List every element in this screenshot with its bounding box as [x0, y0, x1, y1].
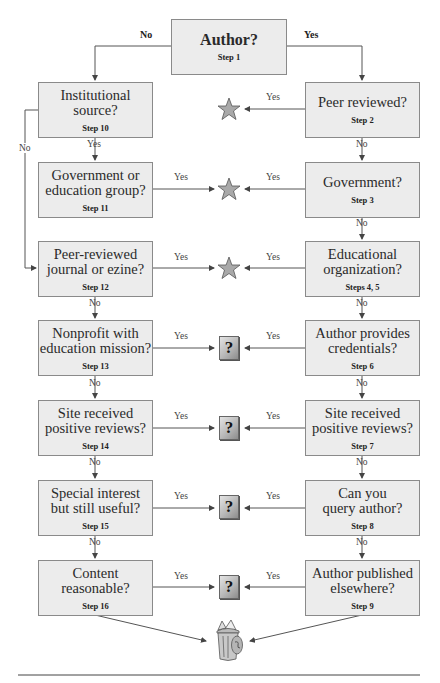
step-11-yes-label: Yes — [174, 172, 188, 182]
step-16-box: Content reasonable? Step 16 — [38, 560, 153, 616]
step-13-label: Step 13 — [82, 361, 109, 371]
step-15-label: Step 15 — [82, 521, 109, 531]
question-mark-icon: ? — [219, 416, 239, 440]
step-12-box: Peer-reviewed journal or ezine? Step 12 — [38, 241, 153, 297]
step-14-label: Step 14 — [82, 441, 109, 451]
step-9-line-2: elsewhere? — [330, 581, 394, 596]
step-6-box: Author provides credentials? Step 6 — [305, 320, 420, 376]
step-6-line-1: Author provides — [315, 326, 410, 341]
step-14-line-1: Site received — [58, 406, 133, 421]
step-14-no-label: No — [89, 457, 101, 467]
step-11-label: Step 11 — [82, 203, 108, 213]
step-6-yes-label: Yes — [266, 331, 280, 341]
step-10-yes-label: Yes — [87, 139, 101, 149]
step-10-line-2: source? — [73, 103, 117, 118]
trash-can-icon — [212, 618, 244, 662]
step-11-box: Government or education group? Step 11 — [38, 162, 153, 218]
step-3-line-1: Government? — [323, 175, 402, 190]
start-yes-label: Yes — [304, 29, 318, 40]
step-8-box: Can you query author? Step 8 — [305, 480, 420, 536]
step-6-label: Step 6 — [351, 361, 373, 371]
step-12-yes-label: Yes — [174, 252, 188, 262]
step-15-box: Special interest but still useful? Step … — [38, 480, 153, 536]
step-15-yes-label: Yes — [174, 491, 188, 501]
step-2-yes-label: Yes — [266, 92, 280, 102]
question-mark-icon: ? — [219, 575, 239, 599]
question-mark-icon: ? — [219, 336, 239, 360]
step-13-no-label: No — [89, 378, 101, 388]
step-16-line-2: reasonable? — [61, 581, 129, 596]
step-8-line-1: Can you — [338, 486, 387, 501]
question-mark-icon: ? — [219, 495, 239, 519]
step-13-yes-label: Yes — [174, 331, 188, 341]
steps-4-5-no-label: No — [356, 298, 368, 308]
steps-4-5-yes-label: Yes — [266, 252, 280, 262]
step-16-line-1: Content — [73, 566, 119, 581]
star-icon — [217, 177, 241, 201]
step-2-line-1: Peer reviewed? — [318, 95, 407, 110]
step-10-label: Step 10 — [82, 123, 109, 133]
step-9-line-1: Author published — [312, 566, 413, 581]
step-15-line-1: Special interest — [51, 486, 140, 501]
step-8-no-label: No — [356, 537, 368, 547]
step-12-label: Step 12 — [82, 282, 109, 292]
step-12-line-1: Peer-reviewed — [54, 247, 137, 262]
step-11-line-2: education group? — [45, 183, 145, 198]
star-icon — [217, 256, 241, 280]
step-7-box: Site received positive reviews? Step 7 — [305, 400, 420, 456]
step-14-line-2: positive reviews? — [45, 421, 146, 436]
step-7-line-1: Site received — [325, 406, 400, 421]
step-10-box: Institutional source? Step 10 — [38, 82, 153, 138]
step-16-label: Step 16 — [82, 601, 109, 611]
step-13-line-1: Nonprofit with — [52, 326, 139, 341]
start-no-label: No — [140, 29, 152, 40]
step-9-box: Author published elsewhere? Step 9 — [305, 560, 420, 616]
step-2-box: Peer reviewed? Step 2 — [305, 82, 420, 138]
step-2-label: Step 2 — [351, 115, 373, 125]
step-7-line-2: positive reviews? — [312, 421, 413, 436]
step-16-yes-label: Yes — [174, 571, 188, 581]
step-7-no-label: No — [356, 457, 368, 467]
step-9-label: Step 9 — [351, 601, 373, 611]
step-7-label: Step 7 — [351, 441, 373, 451]
step-1-question: Author? — [200, 32, 258, 47]
step-14-box: Site received positive reviews? Step 14 — [38, 400, 153, 456]
steps-4-5-box: Educational organization? Steps 4, 5 — [305, 241, 420, 297]
step-8-line-2: query author? — [322, 501, 402, 516]
step-12-line-2: journal or ezine? — [47, 262, 144, 277]
step-9-yes-label: Yes — [266, 571, 280, 581]
step-14-yes-label: Yes — [174, 411, 188, 421]
step-8-yes-label: Yes — [266, 491, 280, 501]
left-bypass-no-label: No — [19, 143, 31, 153]
step-3-box: Government? Step 3 — [305, 162, 420, 218]
step-10-line-1: Institutional — [60, 88, 130, 103]
steps-4-5-line-2: organization? — [323, 262, 402, 277]
step-8-label: Step 8 — [351, 521, 373, 531]
step-1-author-box: Author? Step 1 — [171, 19, 287, 75]
star-icon — [217, 97, 241, 121]
step-15-no-label: No — [89, 537, 101, 547]
steps-4-5-line-1: Educational — [328, 247, 397, 262]
step-6-no-label: No — [356, 378, 368, 388]
step-2-no-label: No — [356, 139, 368, 149]
step-7-yes-label: Yes — [266, 411, 280, 421]
flowchart: Author? Step 1 No Yes Institutional sour… — [0, 0, 440, 683]
step-12-no-label: No — [89, 298, 101, 308]
step-11-line-1: Government or — [51, 168, 139, 183]
step-1-label: Step 1 — [218, 52, 240, 62]
step-3-yes-label: Yes — [266, 172, 280, 182]
step-13-box: Nonprofit with education mission? Step 1… — [38, 320, 153, 376]
step-3-no-label: No — [356, 218, 368, 228]
steps-4-5-label: Steps 4, 5 — [345, 282, 379, 292]
step-6-line-2: credentials? — [328, 341, 397, 356]
step-15-line-2: but still useful? — [51, 501, 140, 516]
step-3-label: Step 3 — [351, 195, 373, 205]
step-13-line-2: education mission? — [40, 341, 152, 356]
